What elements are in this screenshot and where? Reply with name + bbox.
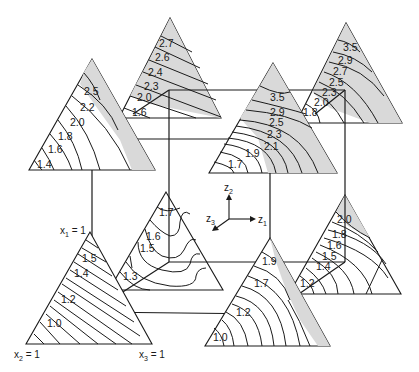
- contour-label: 1.5: [82, 252, 97, 264]
- contour-label: 2.1: [264, 140, 279, 152]
- contour-label: 1.6: [48, 143, 63, 155]
- contour-label: 1.4: [37, 158, 52, 170]
- contour-label: 1.9: [245, 147, 260, 159]
- contour-label: 2.3: [267, 128, 282, 140]
- contour-label: 2.0: [70, 116, 85, 128]
- contour-label: 2.5: [269, 116, 284, 128]
- contour-label: 1.2: [300, 277, 315, 289]
- contour-label: 1.0: [213, 331, 228, 343]
- contour-label: 2.4: [148, 66, 163, 78]
- vertex-label-x3: x3 = 1: [139, 349, 165, 362]
- vertex-label-x1: x1 = 1: [60, 225, 86, 238]
- contour-label: 1.6: [146, 230, 161, 242]
- contour-label: 1.8: [303, 106, 318, 118]
- contour-label: 1.2: [61, 293, 76, 305]
- vertex-label-x2: x2 = 1: [14, 349, 40, 362]
- contour-label: 1.0: [47, 317, 62, 329]
- contour-label: 2.6: [155, 51, 170, 63]
- contour-label: 2.2: [80, 101, 95, 113]
- contour-label: 1.6: [132, 106, 147, 118]
- contour-label: 1.9: [262, 255, 277, 267]
- contour-label: 2.7: [159, 37, 174, 49]
- triangle-top-right-back: 3.5 2.9 2.7 2.5 2.3 2.0 1.8: [296, 23, 402, 123]
- contour-label: 2.0: [337, 213, 352, 225]
- contour-label: 1.3: [123, 270, 138, 282]
- contour-label: 1.4: [74, 267, 89, 279]
- axis-label-z3: z3: [206, 213, 215, 226]
- axis-indicator: z2 z1 z3: [206, 182, 267, 231]
- contour-label: 1.7: [254, 277, 269, 289]
- triangle-top-left-back: 2.7 2.6 2.4 2.3 2.0 1.6: [119, 18, 221, 118]
- contour-label: 1.8: [58, 130, 73, 142]
- cube-ternary-diagram: 2.7 2.6 2.4 2.3 2.0 1.6 3.5 2.9 2.7 2.5 …: [0, 0, 419, 372]
- contour-label: 1.7: [159, 206, 174, 218]
- contour-label: 1.5: [140, 242, 155, 254]
- arrow-right-icon: [250, 216, 256, 222]
- contour-label: 1.7: [228, 158, 243, 170]
- contour-label: 1.2: [236, 306, 251, 318]
- contour-label: 2.5: [84, 85, 99, 97]
- axis-label-z1: z1: [258, 214, 267, 227]
- contour-label: 3.5: [270, 91, 285, 103]
- contour-label: 2.0: [137, 91, 152, 103]
- triangle-bottom-left-back: 1.7 1.6 1.5 1.3: [109, 192, 223, 290]
- contour-label: 3.5: [343, 41, 358, 53]
- axis-label-z2: z2: [224, 182, 233, 195]
